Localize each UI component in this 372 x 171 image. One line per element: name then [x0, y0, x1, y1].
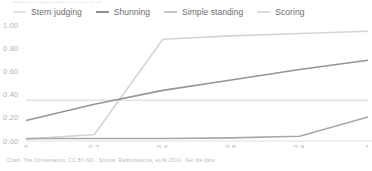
legend-label: Shunning [114, 7, 150, 17]
chart-credit-footer[interactable]: Chart: The Conversation, CC BY-ND · Sour… [7, 157, 215, 164]
x-axis-tick-labels: 0 0.2 0.4 0.6 0.8 1 [24, 143, 369, 148]
legend-item-stern-judging[interactable]: Stern judging [13, 7, 82, 17]
y-tick-label: 0.00 [3, 137, 18, 146]
x-tick-label: 0.6 [225, 143, 236, 148]
legend-line-icon [164, 11, 177, 13]
y-tick-label: 0.60 [3, 67, 18, 76]
legend-item-simple-standing[interactable]: Simple standing [164, 7, 243, 17]
legend-item-scoring[interactable]: Scoring [257, 7, 304, 17]
legend-line-icon [96, 11, 109, 13]
y-tick-label: 0.20 [3, 113, 18, 122]
legend-label: Scoring [275, 7, 304, 17]
line-chart-svg: 1.00 0.80 0.60 0.40 0.20 0.00 [0, 18, 372, 148]
y-tick-label: 0.80 [3, 44, 18, 53]
x-tick-label: 0 [24, 143, 28, 148]
y-tick-label: 0.40 [3, 90, 18, 99]
clipped-headline-remnant: Simple standing wins out [12, 0, 122, 3]
series-lines [26, 31, 368, 139]
chart-container: Simple standing wins out Stern judging S… [0, 0, 372, 171]
x-tick-label: 0.4 [157, 143, 168, 148]
chart-legend: Stern judging Shunning Simple standing S… [13, 6, 304, 18]
x-tick-label: 1 [365, 143, 369, 148]
x-tick-label: 0.2 [88, 143, 99, 148]
plot-area: 1.00 0.80 0.60 0.40 0.20 0.00 [0, 18, 372, 148]
y-axis-tick-labels: 1.00 0.80 0.60 0.40 0.20 0.00 [3, 21, 18, 146]
legend-label: Stern judging [31, 7, 82, 17]
legend-line-icon [13, 11, 26, 13]
legend-item-shunning[interactable]: Shunning [96, 7, 150, 17]
y-tick-label: 1.00 [3, 21, 18, 30]
series-line-shunning [26, 60, 368, 120]
legend-label: Simple standing [182, 7, 243, 17]
x-tick-label: 0.8 [294, 143, 305, 148]
legend-line-icon [257, 11, 270, 13]
